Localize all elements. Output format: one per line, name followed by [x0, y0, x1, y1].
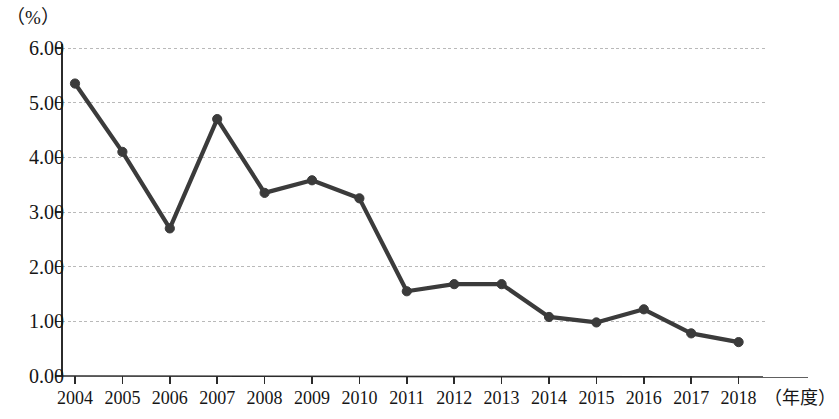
x-axis-unit-label: （年度） — [764, 388, 836, 408]
x-axis-tick-label: 2012 — [436, 388, 472, 408]
x-axis-tick-label: 2009 — [294, 388, 330, 408]
x-axis-tick-label: 2006 — [152, 388, 188, 408]
x-axis-tick-label: 2014 — [531, 388, 567, 408]
x-axis-tick-label: 2010 — [341, 388, 377, 408]
x-axis-tick-label: 2015 — [578, 388, 614, 408]
x-axis-tick-label: 2018 — [721, 388, 757, 408]
x-axis-tick-label: 2005 — [104, 388, 140, 408]
x-axis-labels: 2004200520062007200820092010201120122013… — [0, 0, 839, 419]
x-axis-tick-label: 2013 — [484, 388, 520, 408]
x-axis-tick-label: 2008 — [247, 388, 283, 408]
x-axis-tick-label: 2011 — [389, 388, 424, 408]
x-axis-tick-label: 2016 — [626, 388, 662, 408]
line-chart: （%） 0.001.002.003.004.005.006.00 2004200… — [0, 0, 839, 419]
x-axis-tick-label: 2017 — [673, 388, 709, 408]
x-axis-tick-label: 2004 — [57, 388, 93, 408]
x-axis-tick-label: 2007 — [199, 388, 235, 408]
